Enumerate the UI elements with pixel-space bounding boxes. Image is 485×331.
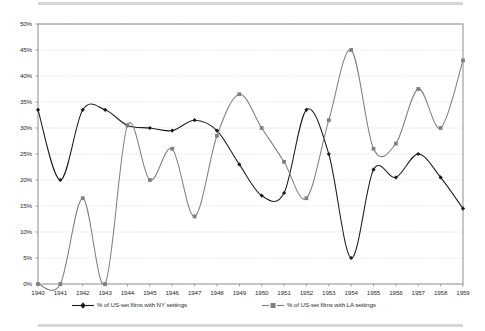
data-point-marker xyxy=(148,126,152,130)
page-bottom-rule xyxy=(38,324,463,327)
data-point-marker xyxy=(394,175,398,179)
data-point-marker xyxy=(237,92,241,96)
data-point-marker xyxy=(305,196,309,200)
data-point-marker xyxy=(282,191,286,195)
line-chart: 50%45%40%35%30%25%20%15%10%5%0% 19401941… xyxy=(0,14,485,298)
diamond-marker-icon xyxy=(72,301,94,310)
data-point-marker xyxy=(148,178,152,182)
data-point-marker xyxy=(36,282,40,286)
data-point-marker xyxy=(58,282,62,286)
data-point-marker xyxy=(327,152,331,156)
y-axis-tick-label: 50% xyxy=(4,20,32,27)
legend-label-la: % of US-set films with LA settings xyxy=(287,301,376,309)
data-point-marker xyxy=(260,126,264,130)
data-point-marker xyxy=(416,152,420,156)
data-point-marker xyxy=(170,129,174,133)
legend-label-ny: % of US-set films with NY settings xyxy=(97,301,187,309)
y-axis-tick-label: 25% xyxy=(4,150,32,157)
series-line-ny xyxy=(38,104,463,258)
data-point-marker xyxy=(372,147,376,151)
data-point-marker xyxy=(103,108,107,112)
chart-page: 50%45%40%35%30%25%20%15%10%5%0% 19401941… xyxy=(0,0,485,331)
y-axis-tick-label: 0% xyxy=(4,280,32,287)
data-point-marker xyxy=(327,118,331,122)
y-axis-tick-label: 30% xyxy=(4,124,32,131)
y-axis-tick-label: 45% xyxy=(4,46,32,53)
data-point-marker xyxy=(215,134,219,138)
x-axis-tick-label: 1959 xyxy=(450,289,476,296)
y-axis-tick-label: 10% xyxy=(4,228,32,235)
data-point-marker xyxy=(349,48,353,52)
data-point-marker xyxy=(170,147,174,151)
data-point-marker xyxy=(193,215,197,219)
series-markers-group xyxy=(36,48,465,286)
data-point-marker xyxy=(416,87,420,91)
series-lines-group xyxy=(38,50,463,291)
page-top-rule xyxy=(38,2,463,5)
legend-entry-ny: % of US-set films with NY settings xyxy=(72,299,187,311)
data-point-marker xyxy=(126,124,130,128)
data-point-marker xyxy=(103,282,107,286)
legend-entry-la: % of US-set films with LA settings xyxy=(262,299,376,311)
y-axis-tick-label: 20% xyxy=(4,176,32,183)
plot-canvas xyxy=(0,14,485,298)
data-point-marker xyxy=(282,160,286,164)
data-point-marker xyxy=(394,142,398,146)
chart-legend: % of US-set films with NY settings % of … xyxy=(0,299,485,313)
gridlines-group xyxy=(36,24,464,284)
series-line-la xyxy=(38,50,463,291)
data-point-marker xyxy=(192,118,196,122)
data-point-marker xyxy=(36,108,40,112)
data-point-marker xyxy=(439,126,443,130)
y-axis-tick-label: 15% xyxy=(4,202,32,209)
y-axis-tick-label: 35% xyxy=(4,98,32,105)
square-marker-icon xyxy=(262,301,284,310)
y-axis-tick-label: 40% xyxy=(4,72,32,79)
data-point-marker xyxy=(461,59,465,63)
y-axis-tick-label: 5% xyxy=(4,254,32,261)
data-point-marker xyxy=(81,196,85,200)
